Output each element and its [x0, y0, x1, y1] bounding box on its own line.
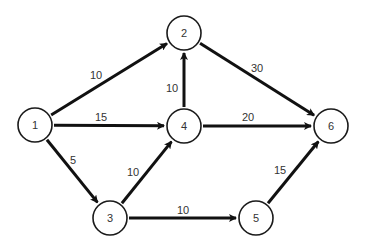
- node-label: 2: [181, 27, 187, 39]
- graph-canvas: 10155103020101015 123456: [0, 0, 366, 251]
- node-4: 4: [167, 109, 201, 143]
- edge-weight-label: 30: [251, 62, 263, 74]
- node-label: 4: [181, 120, 187, 132]
- node-label: 3: [107, 212, 113, 224]
- node-label: 6: [328, 120, 334, 132]
- node-5: 5: [239, 201, 273, 235]
- node-label: 1: [32, 119, 38, 131]
- edge-weight-label: 10: [90, 69, 102, 81]
- edge-weight-label: 10: [127, 166, 139, 178]
- edge-1-2: 10: [51, 44, 167, 116]
- edge-arrow: [54, 125, 164, 126]
- edge-3-5: 10: [129, 204, 236, 218]
- edge-4-6: 20: [203, 111, 311, 126]
- edge-weight-label: 15: [95, 111, 107, 123]
- edge-1-4: 15: [54, 111, 164, 126]
- edge-arrow: [51, 44, 167, 116]
- edge-weight-label: 10: [177, 204, 189, 216]
- node-2: 2: [167, 16, 201, 50]
- edge-3-4: 10: [122, 142, 172, 204]
- edge-weight-label: 10: [166, 82, 178, 94]
- node-6: 6: [314, 109, 348, 143]
- edge-weight-label: 15: [274, 164, 286, 176]
- edge-5-6: 15: [268, 142, 318, 204]
- node-3: 3: [93, 201, 127, 235]
- edge-arrow: [47, 140, 98, 203]
- edge-weight-label: 5: [70, 154, 76, 166]
- node-label: 5: [253, 212, 259, 224]
- node-1: 1: [18, 108, 52, 142]
- edge-arrow: [200, 43, 314, 115]
- edge-weight-label: 20: [242, 111, 254, 123]
- edge-1-3: 5: [47, 140, 98, 203]
- edge-2-6: 30: [200, 43, 314, 115]
- edge-4-2: 10: [166, 53, 184, 107]
